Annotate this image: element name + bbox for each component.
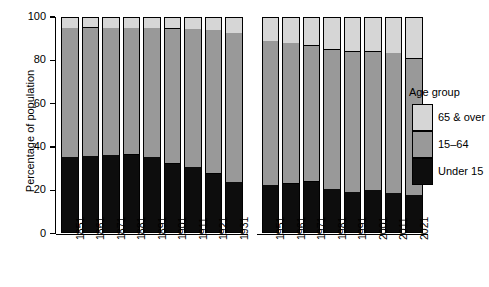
bar-segment — [225, 17, 243, 33]
legend-label: 15–64 — [438, 138, 469, 150]
bar-segment — [225, 33, 243, 182]
bar-segment — [344, 17, 362, 51]
bar-segment — [164, 17, 182, 28]
bar-segment — [364, 51, 382, 190]
x-tick-label-1871: 1871 — [115, 217, 127, 240]
legend-label: Under 15 — [438, 165, 483, 177]
bar-segment — [405, 17, 423, 58]
bar-segment — [184, 17, 202, 29]
y-tick-label: 80 — [34, 54, 46, 65]
bar-segment — [61, 17, 79, 28]
bar-1931[interactable] — [225, 17, 243, 234]
x-tick-label-1881: 1881 — [135, 217, 147, 240]
x-tick-label-1901: 1901 — [176, 217, 188, 240]
bar-1881[interactable] — [123, 17, 141, 234]
bar-segment — [123, 28, 141, 154]
bar-segment — [102, 28, 120, 155]
x-tick-label-1971: 1971 — [315, 217, 327, 240]
x-tick-label-1961: 1961 — [295, 217, 307, 240]
bar-segment — [143, 28, 161, 157]
x-tick-label-2021: 2021 — [418, 217, 430, 240]
bar-1991[interactable] — [344, 17, 362, 234]
y-tick-label: 60 — [34, 98, 46, 109]
bar-1871[interactable] — [102, 17, 120, 234]
bar-1891[interactable] — [143, 17, 161, 234]
bar-1861[interactable] — [82, 17, 100, 234]
bar-segment — [205, 17, 223, 30]
y-tick-label: 0 — [40, 228, 46, 239]
bar-segment — [303, 45, 321, 181]
bar-segment — [143, 17, 161, 28]
y-tick-label: 20 — [34, 184, 46, 195]
bar-1851[interactable] — [61, 17, 79, 234]
y-tick-mark — [50, 16, 55, 17]
bar-segment — [262, 17, 280, 41]
bar-segment — [82, 17, 100, 27]
x-tick-label-1861: 1861 — [94, 217, 106, 240]
x-tick-label-1981: 1981 — [336, 217, 348, 240]
y-tick-mark — [50, 146, 55, 147]
bar-segment — [323, 49, 341, 188]
bar-segment — [282, 43, 300, 184]
bar-segment — [385, 17, 403, 53]
bar-1961[interactable] — [282, 17, 300, 234]
bar-segment — [205, 30, 223, 174]
legend-label: 65 & over — [438, 111, 485, 123]
x-tick-label-1911: 1911 — [197, 217, 209, 240]
y-tick-label: 40 — [34, 141, 46, 152]
bar-segment — [344, 51, 362, 192]
bar-2011[interactable] — [385, 17, 403, 234]
y-tick-label: 100 — [28, 11, 46, 22]
x-tick-label-1851: 1851 — [74, 217, 86, 240]
legend-swatch — [412, 104, 433, 131]
bar-2001[interactable] — [364, 17, 382, 234]
chart-figure: Percentage of population 020406080100 18… — [0, 0, 489, 287]
y-axis-line — [55, 17, 56, 234]
bar-segment — [123, 17, 141, 28]
bar-1921[interactable] — [205, 17, 223, 234]
bar-1951[interactable] — [262, 17, 280, 234]
bar-1971[interactable] — [303, 17, 321, 234]
bar-segment — [164, 28, 182, 163]
bar-segment — [364, 17, 382, 51]
bar-segment — [303, 17, 321, 45]
x-tick-label-1891: 1891 — [156, 217, 168, 240]
legend-title: Age group — [409, 86, 460, 98]
bar-segment — [82, 27, 100, 155]
legend-swatch — [412, 131, 433, 158]
bar-segment — [262, 41, 280, 185]
bar-1911[interactable] — [184, 17, 202, 234]
bar-segment — [61, 28, 79, 157]
legend-swatch — [412, 158, 433, 185]
x-tick-label-1931: 1931 — [238, 217, 250, 240]
y-tick-mark — [50, 60, 55, 61]
bar-1981[interactable] — [323, 17, 341, 234]
y-tick-mark — [50, 103, 55, 104]
y-tick-mark — [50, 233, 55, 234]
x-tick-label-1991: 1991 — [356, 217, 368, 240]
x-tick-label-2001: 2001 — [377, 217, 389, 240]
bar-1901[interactable] — [164, 17, 182, 234]
bar-segment — [184, 29, 202, 167]
bar-segment — [385, 53, 403, 193]
bar-segment — [323, 17, 341, 49]
x-tick-label-1921: 1921 — [217, 217, 229, 240]
x-tick-label-2011: 2011 — [397, 217, 409, 240]
x-tick-label-1951: 1951 — [274, 217, 286, 240]
y-tick-mark — [50, 190, 55, 191]
bar-segment — [102, 17, 120, 28]
bar-segment — [282, 17, 300, 43]
